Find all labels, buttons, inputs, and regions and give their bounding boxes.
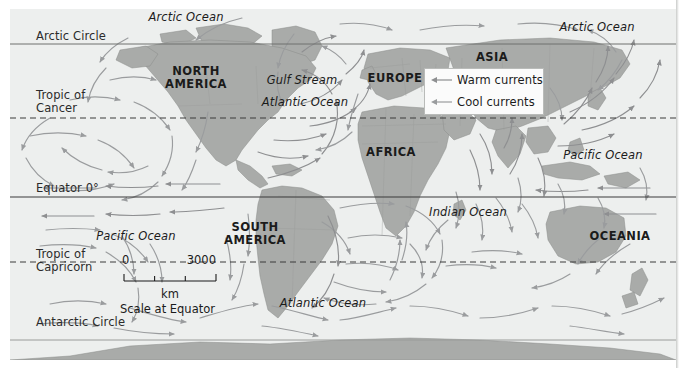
top-margin xyxy=(0,0,696,9)
scale-bar: 0 3000 km Scale at Equator xyxy=(120,253,226,316)
scale-bar-numbers: 0 3000 xyxy=(122,253,216,267)
ocean-label-arctic-eurasia: Arctic Ocean xyxy=(554,21,640,34)
continent-label-africa: AFRICA xyxy=(358,146,424,159)
legend-label-warm-currents: Warm currents xyxy=(457,73,543,87)
legend-row-warm-currents: Warm currents xyxy=(425,69,543,91)
bottom-margin xyxy=(0,360,696,368)
left-arrow-icon xyxy=(431,75,453,85)
scale-max-label: 3000 xyxy=(187,253,216,267)
ocean-label-pacific-east: Pacific Ocean xyxy=(90,230,182,243)
latitude-label-tropic-of-capricorn: Tropic of Capricorn xyxy=(36,248,92,274)
continent-label-north-america: NORTH AMERICA xyxy=(156,65,236,91)
world-map-figure: Arctic Circle Tropic of Cancer Equator 0… xyxy=(0,0,696,368)
scale-unit-label: km xyxy=(120,287,220,301)
latitude-label-equator: Equator 0° xyxy=(36,182,99,195)
continent-label-asia: ASIA xyxy=(466,51,518,64)
right-page-edge xyxy=(676,0,679,368)
continent-label-europe: EUROPE xyxy=(360,72,430,85)
legend-label-cool-currents: Cool currents xyxy=(457,95,535,109)
latitude-label-antarctic-circle: Antarctic Circle xyxy=(36,316,125,329)
left-arrow-icon xyxy=(431,97,453,107)
ocean-label-atlantic-north: Atlantic Ocean xyxy=(256,96,354,109)
ocean-label-indian: Indian Ocean xyxy=(424,206,512,219)
ocean-label-arctic-north-america: Arctic Ocean xyxy=(143,11,229,24)
left-margin xyxy=(0,0,10,368)
scale-min-label: 0 xyxy=(122,253,129,267)
continent-label-south-america: SOUTH AMERICA xyxy=(215,221,295,247)
ocean-label-atlantic-south: Atlantic Ocean xyxy=(274,297,372,310)
scale-bar-rule xyxy=(123,273,217,282)
scale-caption: Scale at Equator xyxy=(120,302,226,316)
continent-label-oceania: OCEANIA xyxy=(580,230,660,243)
legend-row-cool-currents: Cool currents xyxy=(425,91,543,113)
latitude-label-arctic-circle: Arctic Circle xyxy=(36,30,106,43)
ocean-label-pacific-west: Pacific Ocean xyxy=(557,149,649,162)
latitude-label-tropic-of-cancer: Tropic of Cancer xyxy=(36,89,85,115)
currents-legend: Warm currents Cool currents xyxy=(424,68,544,115)
current-label-gulf-stream: Gulf Stream xyxy=(262,74,342,87)
